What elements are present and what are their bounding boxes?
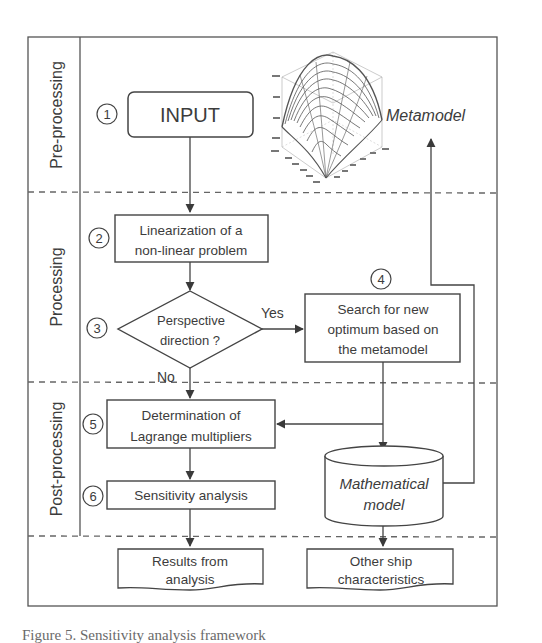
results-line2: analysis xyxy=(166,572,215,587)
step-5-number: 5 xyxy=(89,417,96,432)
ship-line1: Other ship xyxy=(350,554,412,569)
phase-label-pre: Pre-processing xyxy=(48,61,65,169)
metamodel-surface-plot xyxy=(271,52,389,183)
lagrange-line1: Determination of xyxy=(141,408,240,423)
step-1-number: 1 xyxy=(103,107,110,122)
decision-line2: direction ? xyxy=(160,333,220,348)
decision-diamond xyxy=(118,291,262,368)
step-3-number: 3 xyxy=(93,321,100,336)
math-model-line2: model xyxy=(364,496,406,513)
step-2-number: 2 xyxy=(95,231,102,246)
sensitivity-label: Sensitivity analysis xyxy=(134,488,248,503)
search-line2: optimum based on xyxy=(327,322,438,337)
linearization-line1: Linearization of a xyxy=(140,223,243,238)
results-line1: Results from xyxy=(152,554,228,569)
linearization-line2: non-linear problem xyxy=(135,243,248,258)
search-line1: Search for new xyxy=(338,302,429,317)
input-label: INPUT xyxy=(160,104,220,126)
step-4-number: 4 xyxy=(377,272,384,287)
phase-separator-2 xyxy=(28,382,497,383)
yes-label: Yes xyxy=(261,305,284,321)
metamodel-label: Metamodel xyxy=(386,107,466,124)
search-line3: the metamodel xyxy=(338,342,427,357)
step-6-number: 6 xyxy=(89,489,96,504)
flowchart: Pre-processing Processing Post-processin… xyxy=(0,0,542,643)
phase-separator-1 xyxy=(28,192,497,193)
ship-line2: characteristics xyxy=(338,572,425,587)
no-label: No xyxy=(157,369,175,385)
lagrange-line2: Lagrange multipliers xyxy=(130,429,252,444)
phase-label-processing: Processing xyxy=(48,247,65,326)
math-model-line1: Mathematical xyxy=(339,475,429,492)
figure-caption: Figure 5. Sensitivity analysis framework xyxy=(22,627,266,643)
decision-line1: Perspective xyxy=(157,313,225,328)
phase-label-post: Post-processing xyxy=(48,402,65,517)
phase-separator-3 xyxy=(28,536,497,537)
